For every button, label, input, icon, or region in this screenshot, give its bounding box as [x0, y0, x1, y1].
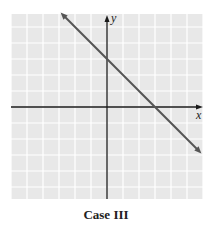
x-axis-label: x — [195, 108, 202, 122]
coordinate-plane: x y — [0, 0, 212, 205]
figure-caption: Case III — [0, 207, 212, 223]
y-axis-label: y — [110, 11, 117, 25]
